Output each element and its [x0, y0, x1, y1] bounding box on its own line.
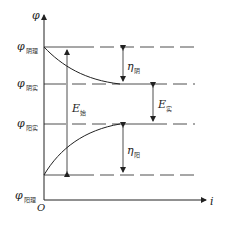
cathode-polarization-curve: [44, 47, 120, 84]
label-anode-theoretical: φ 阳理: [15, 189, 36, 204]
polarization-diagram: φ i O φ 阴理 φ 阴实 φ 阳实 φ 阳理: [0, 0, 225, 229]
eta-anode-arrow: η 阳: [123, 127, 140, 172]
label-cathode-theoretical: φ 阴理: [17, 40, 38, 55]
svg-text:E: E: [71, 102, 80, 115]
svg-text:φ: φ: [17, 40, 25, 53]
svg-text:阳理: 阳理: [24, 196, 36, 204]
svg-text:阴: 阴: [134, 67, 140, 75]
label-cathode-actual: φ 阴实: [17, 77, 38, 92]
svg-text:φ: φ: [17, 77, 25, 90]
svg-text:阴实: 阴实: [26, 84, 38, 92]
e-actual-arrow: E 实: [153, 87, 172, 121]
svg-text:η: η: [127, 144, 134, 157]
label-anode-actual: φ 阳实: [17, 117, 38, 132]
svg-text:φ: φ: [17, 117, 25, 130]
svg-text:E: E: [157, 98, 166, 111]
svg-text:η: η: [127, 60, 134, 73]
anode-polarization-curve: [44, 124, 120, 175]
x-axis-label: i: [210, 195, 214, 208]
y-axis-label: φ: [32, 9, 40, 22]
svg-text:阴理: 阴理: [26, 47, 38, 55]
svg-text:阳: 阳: [134, 151, 140, 159]
origin-label: O: [37, 202, 45, 213]
svg-text:实: 实: [166, 105, 172, 113]
svg-text:始: 始: [80, 109, 86, 117]
svg-text:阳实: 阳实: [26, 124, 38, 132]
svg-text:φ: φ: [15, 189, 23, 202]
eta-cathode-arrow: η 阴: [123, 50, 140, 81]
